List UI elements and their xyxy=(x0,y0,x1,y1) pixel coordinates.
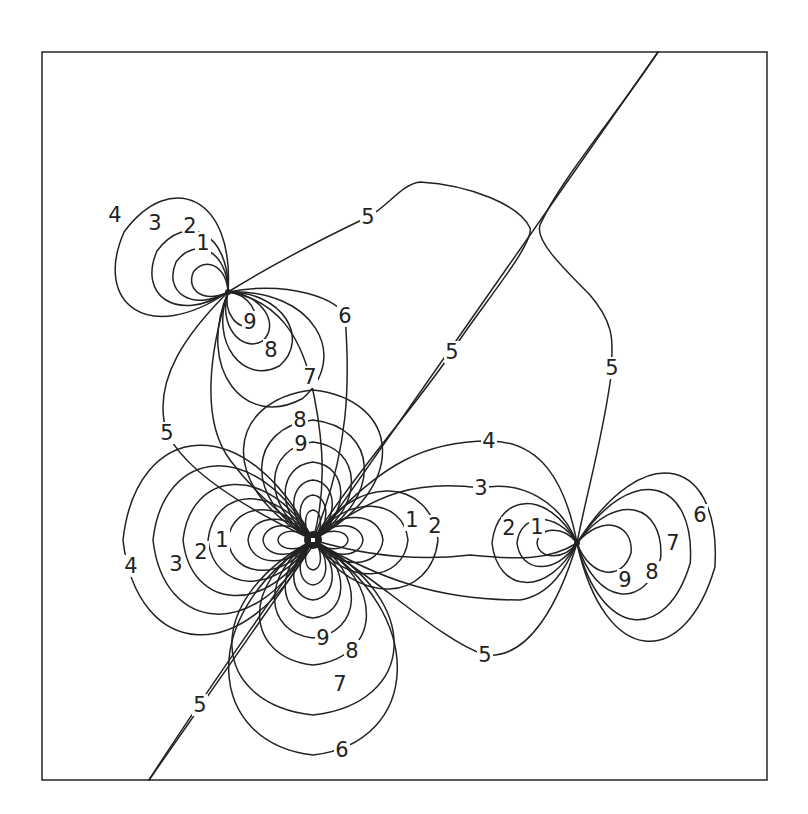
right-node xyxy=(574,540,580,546)
contour-label: 8 xyxy=(264,338,277,362)
contour-label: 2 xyxy=(183,214,196,238)
contour-label: 1 xyxy=(530,515,543,539)
contour-label: 9 xyxy=(294,432,307,456)
contour-label: 9 xyxy=(618,568,631,592)
central-node-marker xyxy=(311,538,315,542)
contour-label: 5 xyxy=(193,693,206,717)
contour-label: 9 xyxy=(243,310,256,334)
contour-loop xyxy=(192,264,228,296)
nodal-line xyxy=(149,52,658,780)
contour-label: 3 xyxy=(474,476,487,500)
contour-label: 6 xyxy=(335,738,348,762)
contour-loop xyxy=(173,249,228,300)
contour-label: 5 xyxy=(605,356,618,380)
contour-label: 5 xyxy=(160,421,173,445)
contour-label: 6 xyxy=(693,503,706,527)
contour-label: 3 xyxy=(169,552,182,576)
contour-label: 7 xyxy=(666,531,679,555)
contour-label: 3 xyxy=(148,211,161,235)
contour-lines xyxy=(115,52,715,780)
contour-label: 5 xyxy=(361,205,374,229)
contour-label: 4 xyxy=(482,429,495,453)
contour-label: 2 xyxy=(194,540,207,564)
upper-left-node xyxy=(225,289,231,295)
contour-line xyxy=(313,540,577,600)
contour-label: 4 xyxy=(108,203,121,227)
contour-label: 5 xyxy=(478,643,491,667)
contour-label: 7 xyxy=(303,365,316,389)
contour-plot: 4321986755558912432198765543216789 xyxy=(0,0,808,814)
contour-label: 9 xyxy=(316,626,329,650)
contour-label: 1 xyxy=(405,508,418,532)
contour-label: 2 xyxy=(428,514,441,538)
contour-label: 5 xyxy=(445,340,458,364)
contour-label: 8 xyxy=(345,639,358,663)
contour-label: 2 xyxy=(502,516,515,540)
contour-loop xyxy=(153,466,313,614)
contour-loop xyxy=(229,540,398,755)
contour-label: 8 xyxy=(645,560,658,584)
contour-label: 1 xyxy=(215,528,228,552)
contour-loop xyxy=(313,506,408,574)
contour-labels: 4321986755558912432198765543216789 xyxy=(107,203,708,762)
contour-label: 4 xyxy=(124,554,137,578)
contour-loop xyxy=(577,473,715,641)
contour-label: 6 xyxy=(338,304,351,328)
contour-label: 1 xyxy=(196,231,209,255)
contour-label: 7 xyxy=(333,672,346,696)
contour-label: 8 xyxy=(293,408,306,432)
contour-line xyxy=(539,52,658,543)
